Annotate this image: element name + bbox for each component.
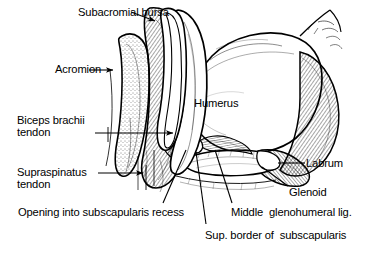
label-biceps-line2: tendon: [17, 126, 50, 138]
label-middle-glenohumeral: Middle glenohumeral lig.: [231, 206, 352, 218]
label-sup-border: Sup. border of subscapularis: [205, 229, 346, 241]
anatomy-figure: Subacromial bursa Acromion Biceps brachi…: [0, 0, 383, 254]
label-humerus: Humerus: [194, 97, 238, 109]
label-glenoid: Glenoid: [289, 186, 327, 198]
label-subacromial-bursa: Subacromial bursa: [78, 6, 169, 18]
label-opening-recess: Opening into subscapularis recess: [18, 206, 184, 218]
label-supraspinatus-line1: Supraspinatus: [17, 166, 87, 178]
label-labrum: Labrum: [306, 157, 343, 169]
label-acromion: Acromion: [55, 63, 101, 75]
label-supraspinatus-line2: tendon: [17, 178, 50, 190]
label-biceps-line1: Biceps brachii: [17, 114, 85, 126]
